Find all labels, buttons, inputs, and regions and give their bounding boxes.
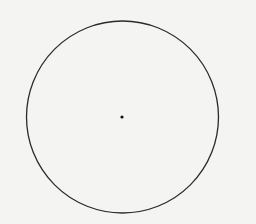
center-point: [120, 115, 123, 118]
diagram-canvas: [0, 0, 256, 224]
